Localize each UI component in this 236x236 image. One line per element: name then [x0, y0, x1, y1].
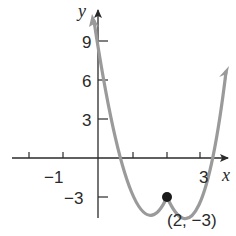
x-axis-label: x — [221, 165, 230, 185]
vertex-label: (2, −3) — [167, 211, 217, 230]
parabola-curve — [94, 21, 226, 219]
parabola-chart: y x −1 3 9 6 3 −3 (2, −3) — [0, 0, 236, 236]
vertex-point — [162, 192, 172, 202]
tick-label-y-9: 9 — [82, 33, 91, 52]
tick-label-y-neg3: −3 — [64, 189, 83, 208]
x-ticks — [29, 152, 200, 158]
y-axis-label: y — [76, 1, 86, 21]
tick-label-y-6: 6 — [82, 72, 91, 91]
tick-label-x-3: 3 — [199, 168, 208, 187]
tick-label-y-3: 3 — [82, 111, 91, 130]
tick-label-x-neg1: −1 — [44, 168, 63, 187]
